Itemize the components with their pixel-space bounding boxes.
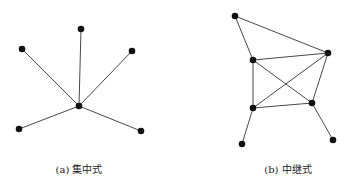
node-n2 xyxy=(19,46,26,53)
edge-hub-n4 xyxy=(19,106,79,129)
node-n5 xyxy=(138,128,145,135)
centralized-topology xyxy=(16,26,145,135)
edge-hub-n2 xyxy=(22,49,79,106)
node-B xyxy=(325,50,332,57)
edge-hub-n1 xyxy=(79,29,81,106)
edge-D-B xyxy=(253,53,328,108)
node-n4 xyxy=(16,126,23,133)
caption-relay: (b) 中继式 xyxy=(264,161,311,176)
relay-topology xyxy=(232,13,337,148)
edge-E-G xyxy=(312,103,333,140)
node-n1 xyxy=(78,26,85,33)
network-topology-diagram xyxy=(0,0,350,184)
edge-hub-n5 xyxy=(79,106,141,131)
edge-E-B xyxy=(312,53,328,103)
node-E xyxy=(309,100,316,107)
node-A xyxy=(232,13,239,20)
node-D xyxy=(250,105,257,112)
node-G xyxy=(330,137,337,144)
edge-D-E xyxy=(253,103,312,108)
edge-D-F xyxy=(242,108,253,144)
caption-centralized: (a) 集中式 xyxy=(56,161,103,176)
edge-hub-n3 xyxy=(79,51,132,106)
node-hub xyxy=(76,103,83,110)
node-C xyxy=(250,57,257,64)
edge-A-B xyxy=(235,16,328,53)
edge-C-B xyxy=(253,53,328,60)
node-F xyxy=(239,141,246,148)
edge-A-C xyxy=(235,16,253,60)
edge-C-E xyxy=(253,60,312,103)
node-n3 xyxy=(129,48,136,55)
